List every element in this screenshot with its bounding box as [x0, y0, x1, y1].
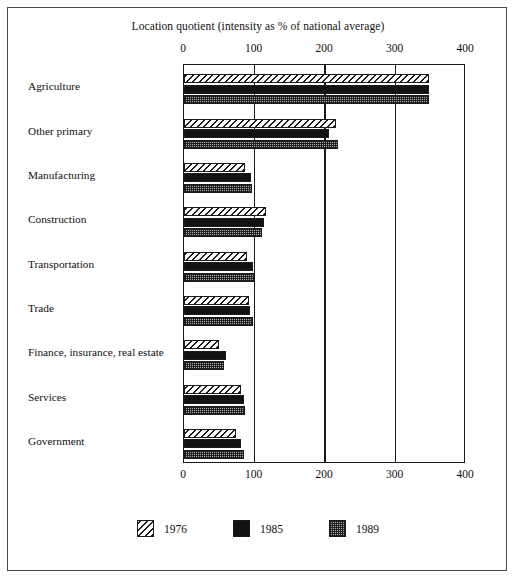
category-axis: AgricultureOther primaryManufacturingCon… — [0, 64, 178, 463]
bar-manufacturing-1989 — [184, 184, 252, 193]
bar-manufacturing-1985 — [184, 173, 251, 182]
bar-manufacturing-1976 — [184, 163, 245, 172]
x-tick-label: 300 — [386, 468, 403, 480]
bar-finance-insurance-real-estate-1989 — [184, 361, 224, 370]
x-tick-label: 200 — [315, 468, 332, 480]
bar-construction-1976 — [184, 207, 266, 216]
x-tick-label: 300 — [386, 42, 403, 54]
legend-swatch-icon — [233, 520, 250, 537]
x-tick-label: 0 — [180, 468, 186, 480]
x-tick-label: 0 — [180, 42, 186, 54]
x-axis-bottom: 0100200300400 — [183, 468, 465, 484]
x-tick-label: 400 — [456, 42, 473, 54]
bar-agriculture-1985 — [184, 85, 429, 94]
bar-government-1989 — [184, 450, 244, 459]
x-axis-top: 0100200300400 — [183, 42, 465, 58]
legend-item-1985[interactable]: 1985 — [233, 520, 283, 537]
plot-area — [183, 64, 465, 463]
category-label: Manufacturing — [28, 169, 95, 181]
bar-trade-1976 — [184, 296, 249, 305]
x-tick-label: 400 — [456, 468, 473, 480]
bar-agriculture-1989 — [184, 95, 429, 104]
bar-finance-insurance-real-estate-1985 — [184, 351, 226, 360]
category-label: Finance, insurance, real estate — [28, 346, 164, 358]
bar-trade-1985 — [184, 306, 250, 315]
bar-services-1976 — [184, 385, 241, 394]
bar-construction-1985 — [184, 218, 264, 227]
bar-other-primary-1976 — [184, 119, 336, 128]
category-label: Trade — [28, 302, 54, 314]
legend-item-1976[interactable]: 1976 — [137, 520, 187, 537]
legend-label: 1976 — [164, 523, 187, 535]
bar-other-primary-1985 — [184, 129, 329, 138]
x-tick-label: 100 — [245, 468, 262, 480]
category-label: Other primary — [28, 125, 92, 137]
category-label: Construction — [28, 213, 86, 225]
x-tick-label: 200 — [315, 42, 332, 54]
category-label: Agriculture — [28, 80, 80, 92]
bar-services-1989 — [184, 406, 245, 415]
category-label: Services — [28, 391, 66, 403]
chart-legend: 197619851989 — [0, 520, 516, 537]
bar-transportation-1976 — [184, 252, 247, 261]
bar-government-1976 — [184, 429, 236, 438]
gridline — [395, 65, 397, 462]
bar-government-1985 — [184, 439, 241, 448]
bar-finance-insurance-real-estate-1976 — [184, 340, 219, 349]
legend-swatch-icon — [329, 520, 346, 537]
legend-swatch-icon — [137, 520, 154, 537]
bar-transportation-1989 — [184, 273, 254, 282]
bar-agriculture-1976 — [184, 74, 429, 83]
bar-services-1985 — [184, 395, 244, 404]
bar-other-primary-1989 — [184, 140, 338, 149]
bar-transportation-1985 — [184, 262, 253, 271]
legend-label: 1985 — [260, 523, 283, 535]
chart-figure: Location quotient (intensity as % of nat… — [0, 0, 516, 580]
chart-title: Location quotient (intensity as % of nat… — [0, 20, 516, 32]
category-label: Transportation — [28, 258, 94, 270]
legend-label: 1989 — [356, 523, 379, 535]
x-tick-label: 100 — [245, 42, 262, 54]
bar-construction-1989 — [184, 228, 262, 237]
category-label: Government — [28, 435, 84, 447]
legend-item-1989[interactable]: 1989 — [329, 520, 379, 537]
bar-trade-1989 — [184, 317, 253, 326]
